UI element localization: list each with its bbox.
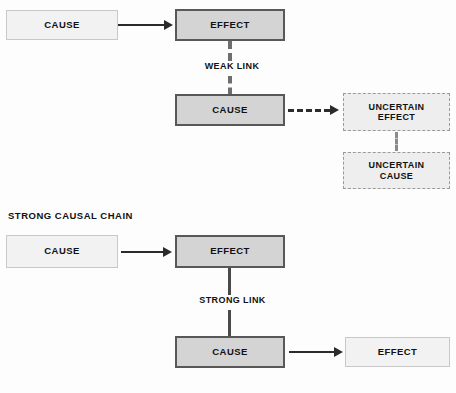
node-uncertain-cause[interactable]: UNCERTAIN CAUSE: [343, 152, 450, 189]
link-strong-upper: [228, 268, 231, 295]
node-label: EFFECT: [378, 347, 417, 358]
node-weak-cause-2[interactable]: CAUSE: [175, 94, 285, 126]
arrow-head-icon: [334, 347, 343, 357]
node-label: EFFECT: [210, 20, 249, 31]
arrow-head-icon: [164, 20, 173, 30]
arrow-strong-cause2-to-effect2: [289, 351, 336, 353]
caption-strong-link: STRONG LINK: [185, 295, 280, 305]
arrow-head-icon: [330, 105, 339, 115]
link-strong-lower: [228, 310, 231, 337]
node-strong-cause-1[interactable]: CAUSE: [6, 235, 118, 268]
node-uncertain-effect[interactable]: UNCERTAIN EFFECT: [343, 93, 450, 131]
node-label: CAUSE: [44, 246, 79, 257]
section-heading-strong-causal-chain: STRONG CAUSAL CHAIN: [8, 210, 133, 221]
node-weak-cause-1[interactable]: CAUSE: [6, 10, 118, 40]
arrow-weak-cause2-to-uncertain-effect: [288, 109, 330, 112]
node-weak-effect-1[interactable]: EFFECT: [175, 9, 285, 41]
node-label: UNCERTAIN CAUSE: [369, 160, 425, 181]
node-strong-effect-2[interactable]: EFFECT: [345, 337, 450, 367]
link-uncertain: [395, 132, 398, 151]
node-strong-cause-2[interactable]: CAUSE: [175, 336, 285, 368]
node-label: CAUSE: [212, 347, 247, 358]
node-label: CAUSE: [44, 20, 79, 31]
arrow-head-icon: [163, 247, 172, 257]
arrow-weak-cause1-to-effect1: [118, 24, 166, 26]
link-weak-upper: [228, 41, 232, 61]
arrow-strong-cause1-to-effect1: [121, 251, 165, 253]
link-weak-lower: [228, 76, 232, 95]
caption-weak-link: WEAK LINK: [189, 61, 275, 71]
node-label: UNCERTAIN EFFECT: [369, 102, 425, 123]
node-label: CAUSE: [212, 105, 247, 116]
node-strong-effect-1[interactable]: EFFECT: [175, 235, 285, 268]
node-label: EFFECT: [210, 246, 249, 257]
causal-diagram-canvas: CAUSE EFFECT WEAK LINK CAUSE UNCERTAIN E…: [0, 0, 456, 393]
